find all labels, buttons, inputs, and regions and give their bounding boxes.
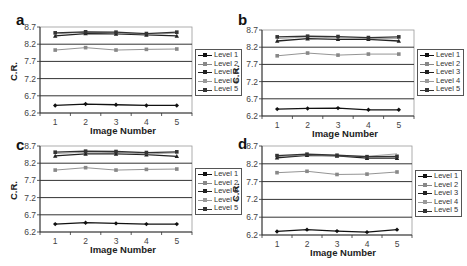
- series-marker-icon: [418, 173, 432, 179]
- series-marker-icon: [198, 52, 212, 58]
- svg-text:6.2: 6.2: [24, 108, 36, 118]
- chart-panel-c: c 6.26.77.27.78.28.712345 C.R. Image Num…: [0, 133, 233, 266]
- svg-text:5: 5: [396, 120, 401, 130]
- svg-text:7.7: 7.7: [246, 177, 258, 187]
- svg-text:7.7: 7.7: [246, 59, 258, 69]
- svg-text:7.2: 7.2: [24, 193, 36, 203]
- legend: Level 1 Level 2 Level 3 Level 4 Level 5: [417, 49, 464, 96]
- svg-text:6.7: 6.7: [24, 91, 36, 101]
- series-marker-icon: [420, 61, 434, 67]
- svg-text:2: 2: [83, 117, 88, 127]
- svg-text:7.7: 7.7: [24, 175, 36, 185]
- x-axis-title: Image Number: [90, 244, 156, 255]
- svg-text:5: 5: [174, 117, 179, 127]
- x-axis-title: Image Number: [310, 247, 376, 258]
- series-marker-icon: [198, 78, 212, 84]
- svg-text:6.2: 6.2: [246, 111, 258, 121]
- svg-text:8.2: 8.2: [246, 159, 258, 169]
- legend-item-level-5: Level 5: [198, 204, 238, 213]
- svg-text:5: 5: [395, 239, 400, 249]
- series-marker-icon: [198, 171, 212, 177]
- svg-text:6.7: 6.7: [24, 210, 36, 220]
- series-marker-icon: [418, 208, 432, 214]
- svg-text:6.2: 6.2: [24, 227, 36, 237]
- svg-text:7.2: 7.2: [24, 74, 36, 84]
- svg-text:2: 2: [305, 120, 310, 130]
- series-marker-icon: [198, 180, 212, 186]
- y-axis-title: C.R.: [8, 181, 19, 200]
- chart-panel-d: d 6.26.77.27.78.28.712345 C.R. Image Num…: [234, 133, 467, 266]
- svg-text:1: 1: [275, 239, 280, 249]
- series-marker-icon: [420, 87, 434, 93]
- legend: Level 1 Level 2 Level 3 Level 4 Level 5: [415, 170, 462, 217]
- legend-item-level-5: Level 5: [420, 85, 460, 94]
- y-axis-title: C.R.: [230, 183, 241, 202]
- svg-text:7.7: 7.7: [24, 56, 36, 66]
- svg-text:7.2: 7.2: [246, 194, 258, 204]
- series-marker-icon: [198, 197, 212, 203]
- svg-text:6.7: 6.7: [246, 94, 258, 104]
- y-axis-title: C.R.: [230, 65, 241, 84]
- series-marker-icon: [420, 52, 434, 58]
- series-marker-icon: [418, 182, 432, 188]
- svg-text:8.2: 8.2: [246, 42, 258, 52]
- svg-text:1: 1: [53, 117, 58, 127]
- series-marker-icon: [418, 190, 432, 196]
- series-marker-icon: [198, 69, 212, 75]
- chart-panel-a: a 6.26.77.27.78.28.712345 C.R. Image Num…: [0, 0, 233, 133]
- svg-text:8.2: 8.2: [24, 158, 36, 168]
- svg-text:8.7: 8.7: [24, 141, 36, 151]
- svg-text:8.7: 8.7: [246, 25, 258, 35]
- series-marker-icon: [418, 199, 432, 205]
- svg-text:1: 1: [275, 120, 280, 130]
- svg-text:6.7: 6.7: [246, 212, 258, 222]
- series-marker-icon: [420, 69, 434, 75]
- svg-text:1: 1: [53, 236, 58, 246]
- y-axis-title: C.R.: [8, 62, 19, 81]
- series-marker-icon: [420, 78, 434, 84]
- svg-text:8.7: 8.7: [246, 141, 258, 151]
- series-marker-icon: [198, 87, 212, 93]
- legend-item-level-5: Level 5: [418, 206, 458, 215]
- svg-text:8.2: 8.2: [24, 39, 36, 49]
- series-marker-icon: [198, 61, 212, 67]
- svg-text:7.2: 7.2: [246, 77, 258, 87]
- series-marker-icon: [198, 188, 212, 194]
- svg-text:2: 2: [305, 239, 310, 249]
- svg-text:2: 2: [83, 236, 88, 246]
- series-marker-icon: [198, 206, 212, 212]
- legend-item-level-5: Level 5: [198, 85, 238, 94]
- svg-text:5: 5: [174, 236, 179, 246]
- chart-panel-b: b 6.26.77.27.78.28.712345 C.R. Image Num…: [234, 0, 467, 133]
- svg-text:8.7: 8.7: [24, 22, 36, 32]
- svg-text:6.2: 6.2: [246, 230, 258, 240]
